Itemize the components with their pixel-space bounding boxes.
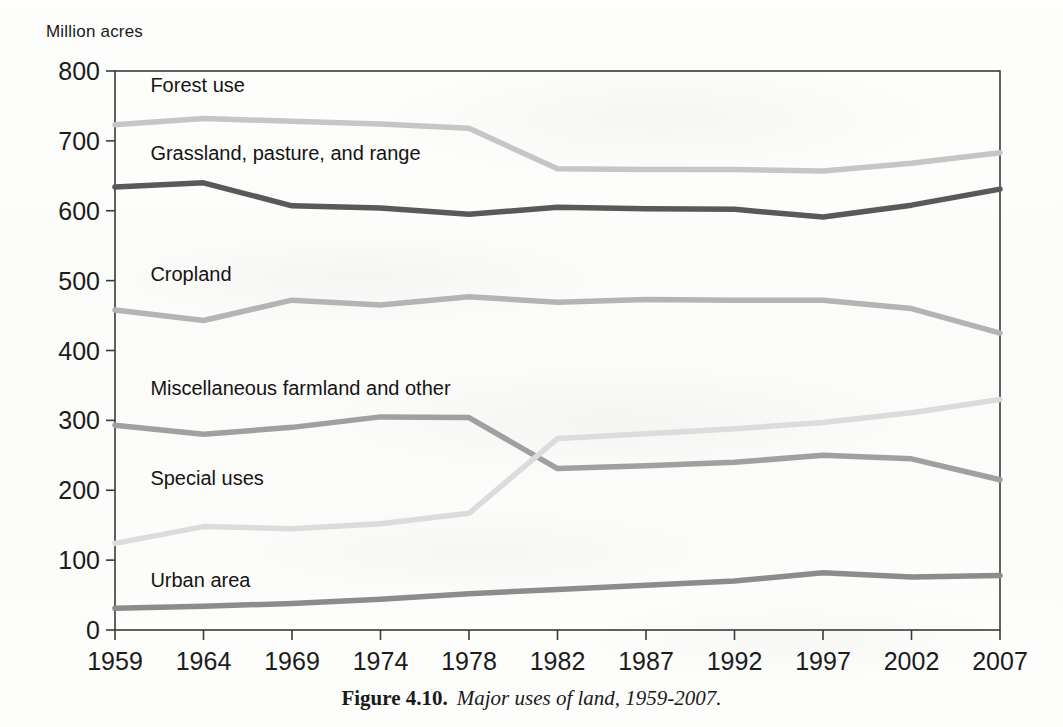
y-axis-tick-label: 300 [58,406,100,434]
chart-plot-area: 0100200300400500600700800195919641969197… [0,0,1063,727]
y-axis-tick-label: 500 [58,267,100,295]
series-label-3: Miscellaneous farmland and other [150,377,451,399]
y-axis-tick-label: 600 [58,197,100,225]
series-label-0: Forest use [150,74,244,96]
line-chart-svg: 0100200300400500600700800195919641969197… [0,0,1063,727]
y-axis-tick-label: 400 [58,337,100,365]
y-axis-tick-label: 0 [86,616,100,644]
x-axis-tick-label: 2002 [884,647,940,675]
series-label-4: Special uses [150,467,263,489]
series-label-1: Grassland, pasture, and range [150,142,420,164]
y-axis-tick-label: 700 [58,127,100,155]
y-axis-tick-label: 200 [58,476,100,504]
x-axis-tick-label: 1978 [441,647,497,675]
series-line-2 [115,297,1000,333]
y-axis-tick-label: 800 [58,57,100,85]
x-axis-tick-label: 1987 [618,647,674,675]
figure-caption-text: Major uses of land, 1959-2007. [457,686,722,710]
figure-caption: Figure 4.10.Major uses of land, 1959-200… [0,686,1063,711]
figure-caption-label: Figure 4.10. [341,686,447,710]
series-line-1 [115,183,1000,217]
x-axis-tick-label: 1992 [707,647,763,675]
y-axis-tick-label: 100 [58,546,100,574]
x-axis-tick-label: 1982 [530,647,586,675]
x-axis-tick-label: 1964 [176,647,232,675]
x-axis-tick-label: 1959 [87,647,143,675]
x-axis-tick-label: 1974 [353,647,409,675]
series-label-2: Cropland [150,263,231,285]
x-axis-tick-label: 2007 [972,647,1028,675]
x-axis-tick-label: 1997 [795,647,851,675]
series-label-5: Urban area [150,569,251,591]
x-axis-tick-label: 1969 [264,647,320,675]
